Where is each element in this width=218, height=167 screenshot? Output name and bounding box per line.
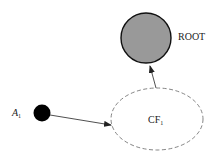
root-label: ROOT	[178, 31, 205, 42]
diagram-svg: ROOT A1 CF1	[0, 0, 218, 167]
a1-node	[34, 105, 51, 122]
root-node	[121, 13, 171, 63]
edge-a1-to-cf1	[50, 115, 111, 125]
edge-cf1-to-root	[150, 66, 156, 88]
diagram-canvas: ROOT A1 CF1	[0, 0, 218, 167]
a1-label: A1	[11, 107, 21, 119]
